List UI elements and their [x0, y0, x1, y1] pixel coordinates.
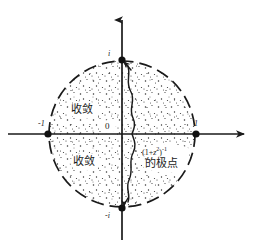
point-minus-1: [44, 130, 51, 137]
region-label-lower: 收敛: [73, 156, 95, 167]
region-label-upper: 收敛: [71, 104, 93, 115]
tick-label-i: i: [108, 50, 110, 58]
pole-label: 的极点: [145, 158, 178, 169]
pole-expression: (1+z2)-1: [142, 146, 167, 157]
origin-label: 0: [105, 122, 110, 131]
expr-open: (1+: [142, 148, 153, 157]
tick-label-minus-1: -1: [38, 120, 45, 128]
complex-plane-figure: i -i -1 1 0 收敛 收敛 (1+z2)-1 的极点: [0, 0, 258, 248]
tick-label-1: 1: [194, 120, 198, 128]
tick-label-minus-i: -i: [105, 212, 110, 220]
point-plus-1: [192, 130, 199, 137]
expr-inverse: -1: [162, 146, 167, 152]
